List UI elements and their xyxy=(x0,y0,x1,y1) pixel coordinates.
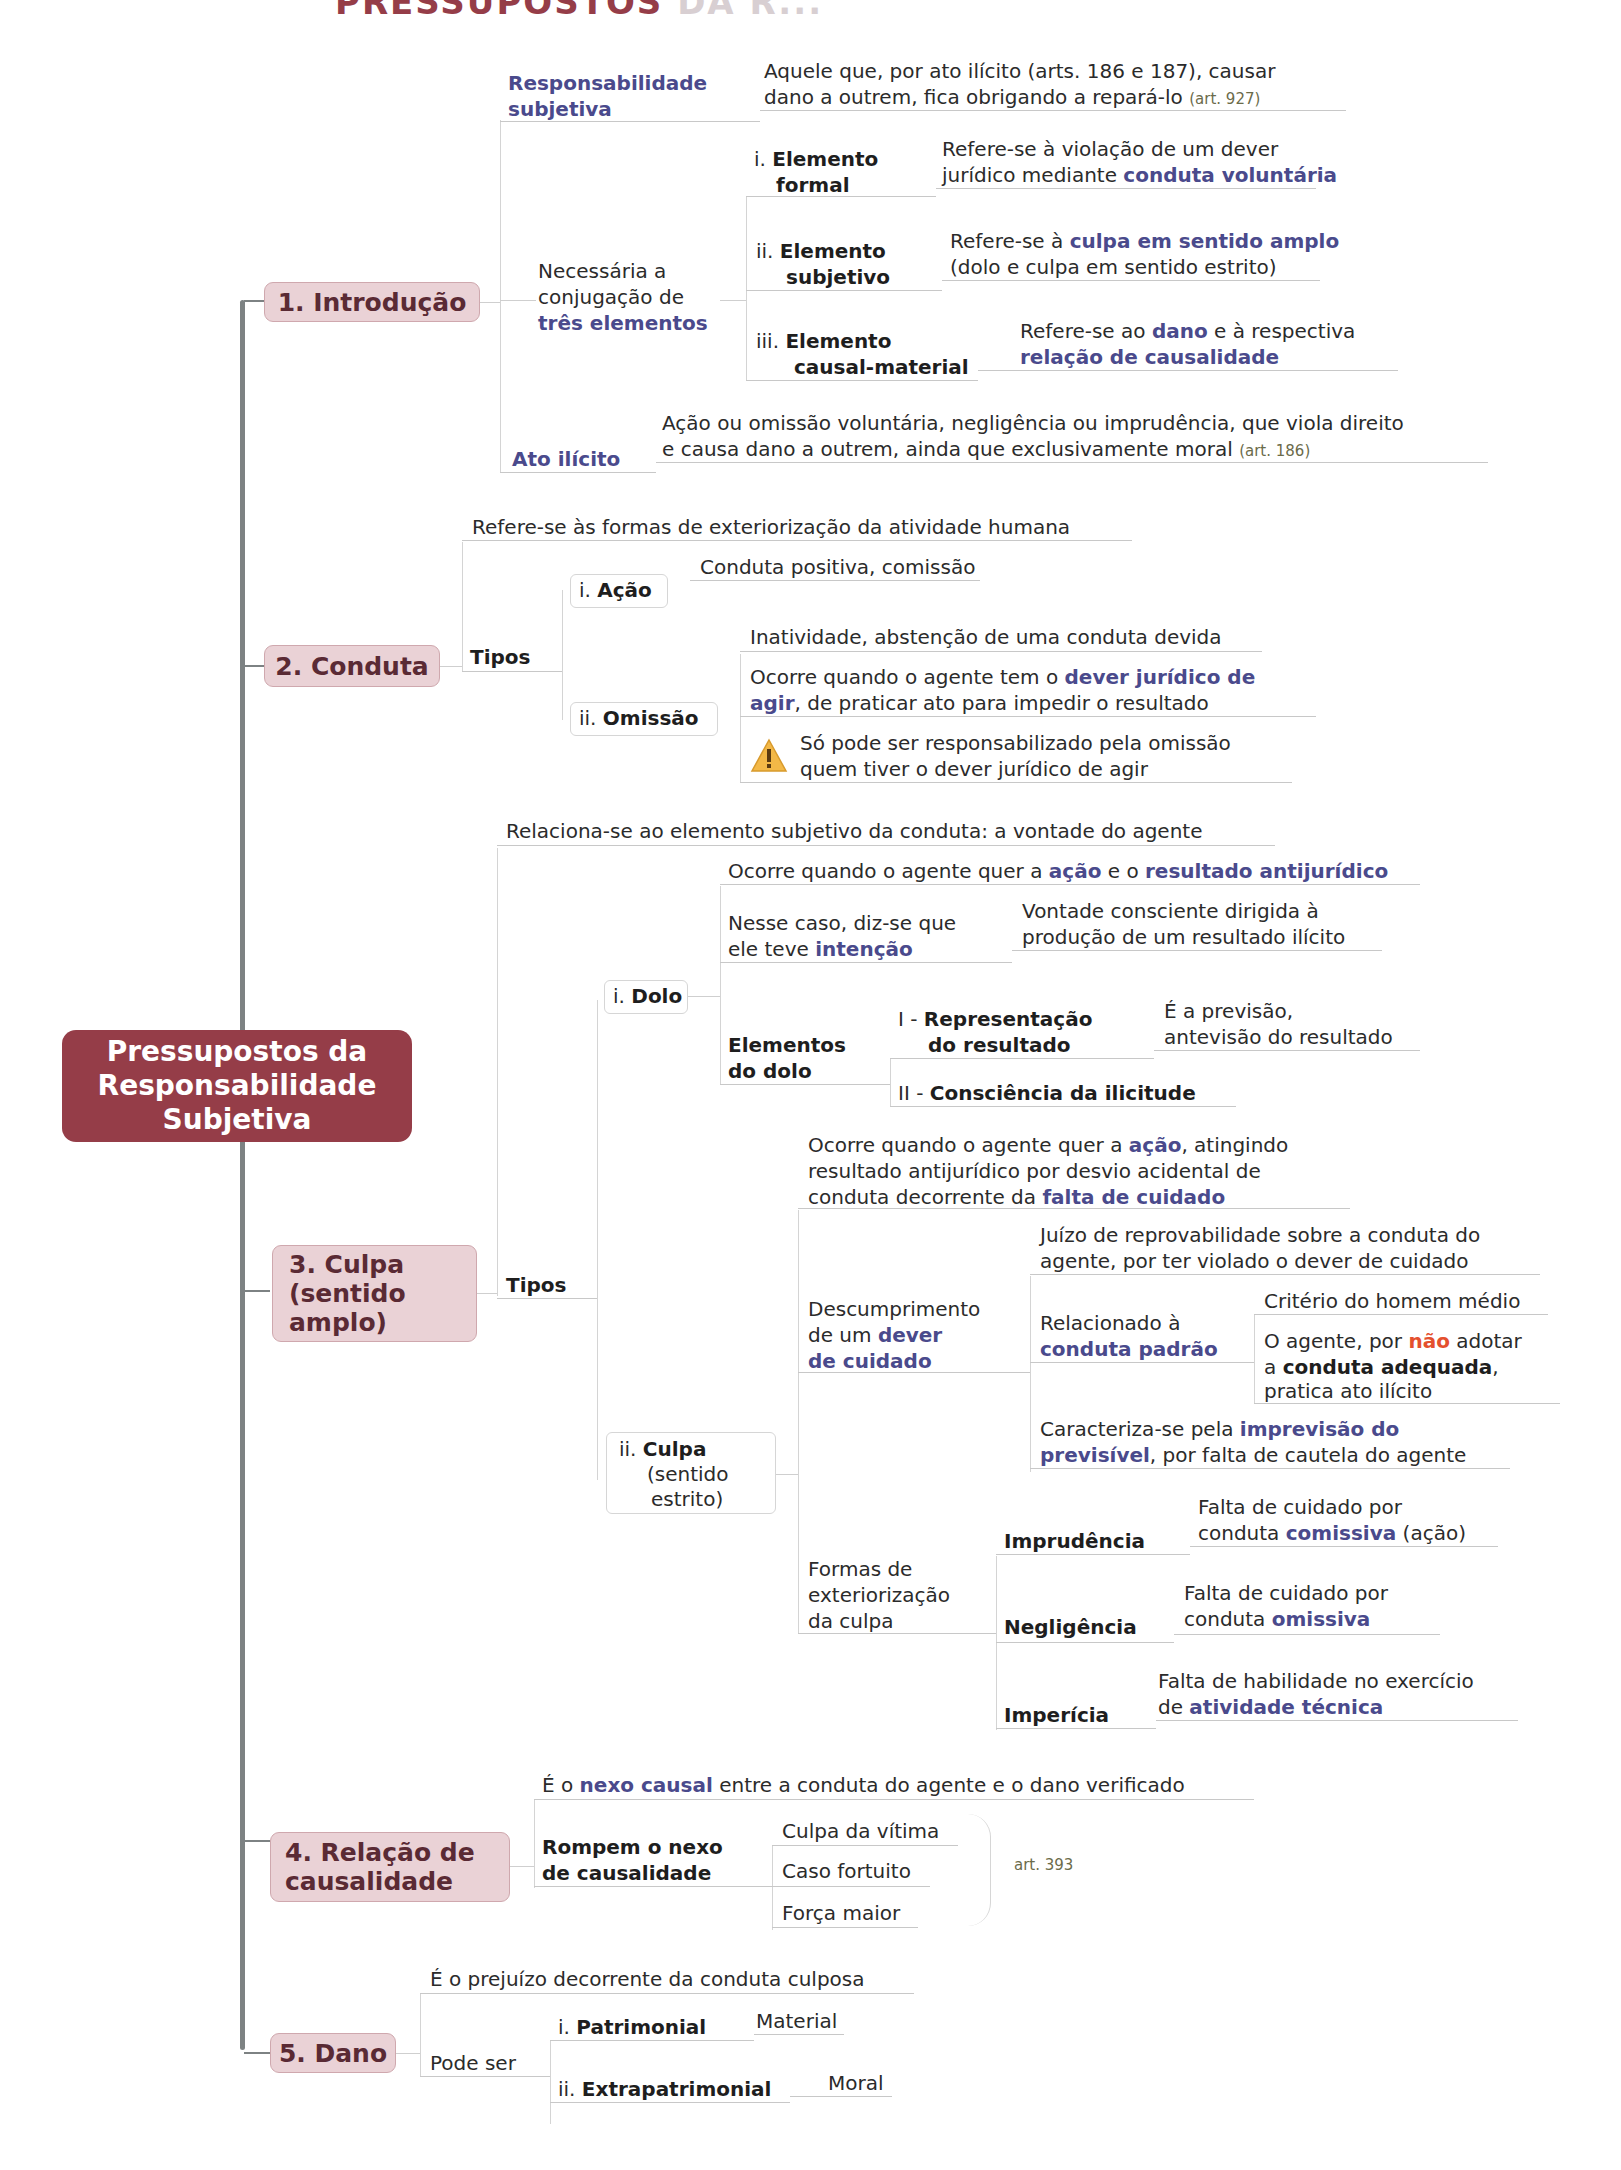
connector xyxy=(396,2053,420,2054)
conduta-acao[interactable]: i. Ação xyxy=(570,574,668,608)
underline xyxy=(1190,1546,1498,1547)
connector xyxy=(562,590,563,720)
underline xyxy=(720,884,1420,885)
juizo-reprovabilidade: agente, por ter violado o dever de cuida… xyxy=(1040,1248,1469,1274)
conduta-desc: Refere-se às formas de exteriorização da… xyxy=(472,514,1070,540)
branch-connector xyxy=(244,300,264,302)
form-negligencia: Negligência xyxy=(1004,1614,1137,1640)
dolo-intencao: Nesse caso, diz-se que xyxy=(728,910,956,936)
form-imprudencia-desc: conduta comissiva (ação) xyxy=(1198,1520,1466,1546)
agente-conduta: pratica ato ilícito xyxy=(1264,1378,1432,1404)
connector xyxy=(798,1210,799,1634)
form-imprudencia: Imprudência xyxy=(1004,1528,1145,1554)
omissao-desc: Ocorre quando o agente tem o dever juríd… xyxy=(750,664,1255,690)
dolo-node[interactable]: i. Dolo xyxy=(604,980,688,1014)
omissao-desc: agir, de praticar ato para impedir o res… xyxy=(750,690,1209,716)
element-formal-desc: jurídico mediante conduta voluntária xyxy=(942,162,1337,188)
conj-label: Necessária a xyxy=(538,258,666,284)
element-formal: i. Elemento xyxy=(754,146,878,172)
dolo-intencao: ele teve intenção xyxy=(728,936,913,962)
element-formal-desc: Refere-se à violação de um dever xyxy=(942,136,1278,162)
rompe-item: Caso fortuito xyxy=(782,1858,911,1884)
dolo-vontade: Vontade consciente dirigida à xyxy=(1022,898,1319,924)
elementos-dolo: do dolo xyxy=(728,1058,812,1084)
previsao: É a previsão, xyxy=(1164,998,1293,1024)
connector xyxy=(510,1866,534,1867)
warning-icon xyxy=(750,738,788,774)
underline xyxy=(746,290,942,291)
topic-culpa[interactable]: 3. Culpa (sentido amplo) xyxy=(272,1245,477,1342)
connector xyxy=(740,654,741,782)
conj-label: conjugação de xyxy=(538,284,684,310)
dolo-vontade: produção de um resultado ilícito xyxy=(1022,924,1345,950)
omissao-warning: Só pode ser responsabilizado pela omissã… xyxy=(800,730,1231,756)
underline xyxy=(760,110,1346,111)
form-negligencia-desc: conduta omissiva xyxy=(1184,1606,1370,1632)
element-formal: formal xyxy=(776,172,850,198)
connector xyxy=(534,1800,535,1888)
underline xyxy=(772,1927,918,1928)
dano-desc: É o prejuízo decorrente da conduta culpo… xyxy=(430,1966,865,1992)
elementos-dolo: Elementos xyxy=(728,1032,846,1058)
element-causal-desc: Refere-se ao dano e à respectiva xyxy=(1020,318,1355,344)
underline xyxy=(746,380,978,381)
connector xyxy=(890,1058,891,1106)
resp-subj-desc: dano a outrem, fica obrigando a repará-l… xyxy=(764,84,1260,112)
underline xyxy=(1030,1362,1254,1363)
main-spine xyxy=(240,300,245,2050)
underline xyxy=(740,651,1262,652)
criterio-homem-medio: Critério do homem médio xyxy=(1264,1288,1520,1314)
bracket-brace xyxy=(968,1814,991,1926)
underline xyxy=(890,1058,1154,1059)
connector xyxy=(772,1846,773,1930)
underline xyxy=(978,370,1398,371)
underline xyxy=(936,188,1316,189)
formas-exteriorizacao: da culpa xyxy=(808,1608,894,1634)
topic-relacao[interactable]: 4. Relação de causalidade xyxy=(270,1832,510,1902)
connector xyxy=(1030,1276,1031,1472)
rompem-nexo: Rompem o nexo xyxy=(542,1834,723,1860)
underline xyxy=(420,2076,550,2077)
connector xyxy=(500,120,501,472)
connector xyxy=(776,1474,798,1475)
branch-connector xyxy=(244,1290,270,1292)
conduta-padrao: conduta padrão xyxy=(1040,1336,1218,1362)
connector xyxy=(477,1293,497,1294)
underline xyxy=(772,1886,930,1887)
previsao: antevisão do resultado xyxy=(1164,1024,1393,1050)
conduta-omissao[interactable]: ii. Omissão xyxy=(570,702,718,736)
dano-extrapatrimonial: ii. Extrapatrimonial xyxy=(558,2076,771,2102)
art-393-ref: art. 393 xyxy=(1014,1852,1073,1878)
underline xyxy=(1156,1720,1518,1721)
page-header: PRESSUPOSTOS DA R... xyxy=(335,0,823,22)
underline xyxy=(740,782,1292,783)
culpa-desc: Relaciona-se ao elemento subjetivo da co… xyxy=(506,818,1203,844)
connector xyxy=(480,302,500,303)
underline xyxy=(740,716,1316,717)
central-topic[interactable]: Pressupostos da Responsabilidade Subjeti… xyxy=(62,1030,412,1142)
culpa-estrito-desc: conduta decorrente da falta de cuidado xyxy=(808,1184,1225,1210)
connector xyxy=(550,2040,551,2124)
culpa-estrito-node[interactable]: ii. Culpa (sentido estrito) xyxy=(606,1432,776,1514)
element-causal-desc: relação de causalidade xyxy=(1020,344,1279,370)
topic-introducao[interactable]: 1. Introdução xyxy=(264,282,480,322)
branch-connector xyxy=(244,665,264,667)
underline xyxy=(720,962,1012,963)
topic-conduta[interactable]: 2. Conduta xyxy=(264,645,440,687)
connector xyxy=(597,1000,598,1480)
dano-moral: Moral xyxy=(828,2070,884,2096)
dever-cuidado: de cuidado xyxy=(808,1348,932,1374)
topic-dano[interactable]: 5. Dano xyxy=(270,2033,396,2073)
imprevisao: previsível, por falta de cautela do agen… xyxy=(1040,1442,1466,1468)
consciencia: II - Consciência da ilicitude xyxy=(898,1080,1196,1106)
ato-ilicito-desc: Ação ou omissão voluntária, negligência … xyxy=(662,410,1404,436)
underline xyxy=(720,1084,890,1085)
ato-ilicito-label: Ato ilícito xyxy=(512,446,620,472)
underline xyxy=(1154,1050,1420,1051)
underline xyxy=(798,1208,1350,1209)
underline xyxy=(1030,1468,1510,1469)
underline xyxy=(550,2102,790,2103)
underline xyxy=(500,472,656,473)
connector xyxy=(1254,1314,1255,1404)
underline xyxy=(656,462,1488,463)
